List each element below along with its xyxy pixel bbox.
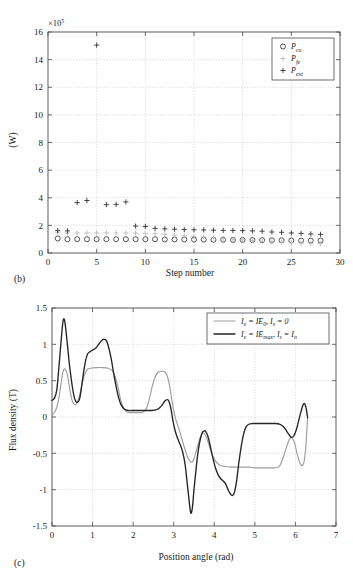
panel-c-legend: Ie = IE0, Is = 0Ie = IEmax, Is = In [207,313,329,344]
figure-container: 051015202530 0246810121416 PcuPfePext ×1… [0,0,353,573]
marker-circle [84,237,89,242]
y-tick-label: 0 [43,412,48,422]
panel-b-y-tick-labels: 0246810121416 [34,27,44,258]
marker-circle [162,237,167,242]
marker-circle [153,237,158,242]
y-tick-label: 2 [39,221,44,231]
panel-b-y-axis-title: (W) [8,132,19,147]
x-tick-label: 30 [336,257,346,267]
y-tick-label: 10 [34,110,44,120]
marker-circle [65,237,70,242]
x-tick-label: 25 [287,257,297,267]
panel-b-svg: 051015202530 0246810121416 PcuPfePext ×1… [0,0,353,290]
panel-c-x-tick-labels: 01234567 [50,530,339,540]
panel-c-x-axis-title: Position angle (rad) [159,552,234,563]
x-tick-label: 6 [293,530,298,540]
x-tick-label: 0 [50,530,55,540]
x-tick-label: 20 [238,257,248,267]
marker-circle [75,237,80,242]
panel-b-label: (b) [14,274,25,285]
y-tick-label: 0.5 [36,376,48,386]
panel-c-curves [52,319,308,513]
curve-Ie = IEmax, Is = In [52,319,308,513]
y-tick-label: 8 [39,138,44,148]
x-tick-label: 0 [46,257,51,267]
y-tick-label: -1.5 [33,521,48,531]
panel-c-y-axis-title: Flux density (T) [8,389,19,451]
panel-b-exponent-label: ×105 [48,18,64,28]
marker-circle [114,237,119,242]
x-tick-label: 5 [94,257,99,267]
y-tick-label: 6 [39,165,44,175]
panel-c-svg: 01234567 -1.5-1-0.500.511.5 Ie = IE0, Is… [0,290,353,573]
x-tick-label: 3 [171,530,176,540]
marker-circle [55,236,60,241]
y-tick-label: 12 [34,82,43,92]
y-tick-label: 14 [34,55,44,65]
x-tick-label: 1 [90,530,95,540]
x-tick-label: 15 [190,257,200,267]
panel-c-y-tick-labels: -1.5-1-0.500.511.5 [33,303,48,531]
marker-circle [104,237,109,242]
y-tick-label: -1 [40,485,48,495]
y-tick-label: 1 [43,340,48,350]
x-tick-label: 2 [131,530,136,540]
marker-circle [172,237,177,242]
panel-b-x-axis-title: Step number [166,268,215,278]
panel-c-label: (c) [14,558,25,569]
panel-b-x-tick-labels: 051015202530 [46,257,345,267]
marker-circle [133,237,138,242]
x-tick-label: 7 [334,530,339,540]
y-tick-label: 1.5 [36,303,48,313]
panel-b-legend: PcuPfePext [272,38,334,80]
y-tick-label: 4 [39,193,44,203]
y-tick-label: -0.5 [33,449,48,459]
x-tick-label: 10 [141,257,151,267]
curve-Ie = IE0, Is = 0 [52,368,308,468]
marker-circle [123,237,128,242]
panel-b-power-plot: 051015202530 0246810121416 PcuPfePext ×1… [0,0,353,290]
x-tick-label: 5 [253,530,258,540]
x-tick-label: 4 [212,530,217,540]
panel-c-flux-plot: 01234567 -1.5-1-0.500.511.5 Ie = IE0, Is… [0,290,353,573]
y-tick-label: 0 [39,248,44,258]
y-tick-label: 16 [34,27,44,37]
